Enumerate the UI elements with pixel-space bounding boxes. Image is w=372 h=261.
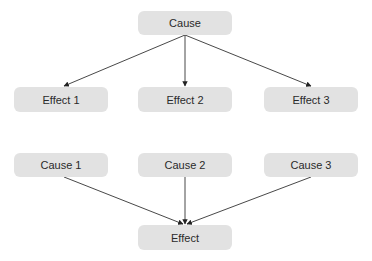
node-effect-3-label: Effect 3	[292, 94, 329, 106]
node-effect-label: Effect	[171, 232, 199, 244]
node-cause-3-label: Cause 3	[291, 159, 332, 171]
node-cause-2: Cause 2	[138, 153, 232, 177]
node-effect-2-label: Effect 2	[166, 94, 203, 106]
node-cause-label: Cause	[169, 17, 201, 29]
node-cause-1: Cause 1	[14, 153, 108, 177]
node-effect-3: Effect 3	[264, 87, 358, 112]
edge-cause-to-effect-3	[185, 35, 311, 86]
node-cause: Cause	[138, 11, 232, 35]
node-cause-1-label: Cause 1	[41, 159, 82, 171]
node-effect-1-label: Effect 1	[42, 94, 79, 106]
node-cause-2-label: Cause 2	[165, 159, 206, 171]
node-effect: Effect	[138, 225, 232, 250]
edge-cause-to-effect-1	[64, 35, 185, 86]
cause-effect-diagram: Cause Effect 1 Effect 2 Effect 3 Cause 1…	[0, 0, 372, 261]
edge-cause-3-to-effect	[187, 177, 311, 224]
edges	[0, 0, 372, 261]
node-cause-3: Cause 3	[264, 153, 358, 177]
node-effect-2: Effect 2	[138, 87, 232, 112]
edge-cause-1-to-effect	[64, 177, 183, 224]
node-effect-1: Effect 1	[14, 87, 108, 112]
